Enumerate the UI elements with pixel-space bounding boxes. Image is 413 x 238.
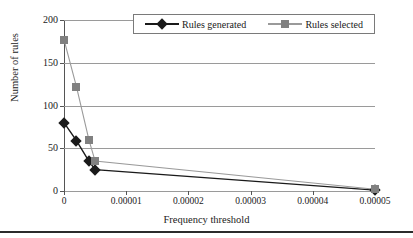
series-line-rules-selected: [64, 40, 375, 190]
y-tick-label: 150: [32, 58, 58, 68]
legend-marker-square-icon: [268, 19, 302, 29]
x-axis-title: Frequency threshold: [0, 214, 413, 225]
x-tick-mark: [313, 191, 314, 195]
data-point: [72, 83, 80, 91]
y-tick-label: 0: [32, 186, 58, 196]
x-tick-label: 0.00005: [340, 196, 410, 207]
series-line-rules-generated: [64, 123, 375, 191]
data-point: [371, 185, 379, 193]
legend-marker-diamond-icon: [145, 19, 179, 29]
chart-figure: Number of rules 050100150200 00.000010.0…: [0, 0, 413, 238]
x-tick-mark: [251, 191, 252, 195]
x-tick-mark: [64, 191, 65, 195]
x-tick-label: 0.00001: [91, 196, 161, 207]
y-tick-label: 50: [32, 143, 58, 153]
x-tick-label: 0: [29, 196, 99, 207]
legend-item-rules-generated[interactable]: Rules generated: [145, 19, 246, 30]
plot-area: [64, 20, 375, 191]
legend-label-rules-generated: Rules generated: [182, 19, 246, 30]
legend-item-rules-selected[interactable]: Rules selected: [268, 19, 362, 30]
x-tick-mark: [188, 191, 189, 195]
gridline: [64, 191, 375, 192]
chart-legend[interactable]: Rules generated Rules selected: [133, 14, 375, 34]
x-tick-label: 0.00002: [153, 196, 223, 207]
y-tick-label: 200: [32, 15, 58, 25]
y-axis-title: Number of rules: [9, 8, 20, 128]
x-tick-mark: [126, 191, 127, 195]
data-point: [85, 136, 93, 144]
data-point: [60, 36, 68, 44]
series-lines: [64, 20, 375, 191]
data-point: [91, 157, 99, 165]
x-tick-label: 0.00004: [278, 196, 348, 207]
legend-label-rules-selected: Rules selected: [305, 19, 362, 30]
x-tick-label: 0.00003: [216, 196, 286, 207]
y-tick-label: 100: [32, 101, 58, 111]
bottom-divider: [0, 231, 413, 233]
